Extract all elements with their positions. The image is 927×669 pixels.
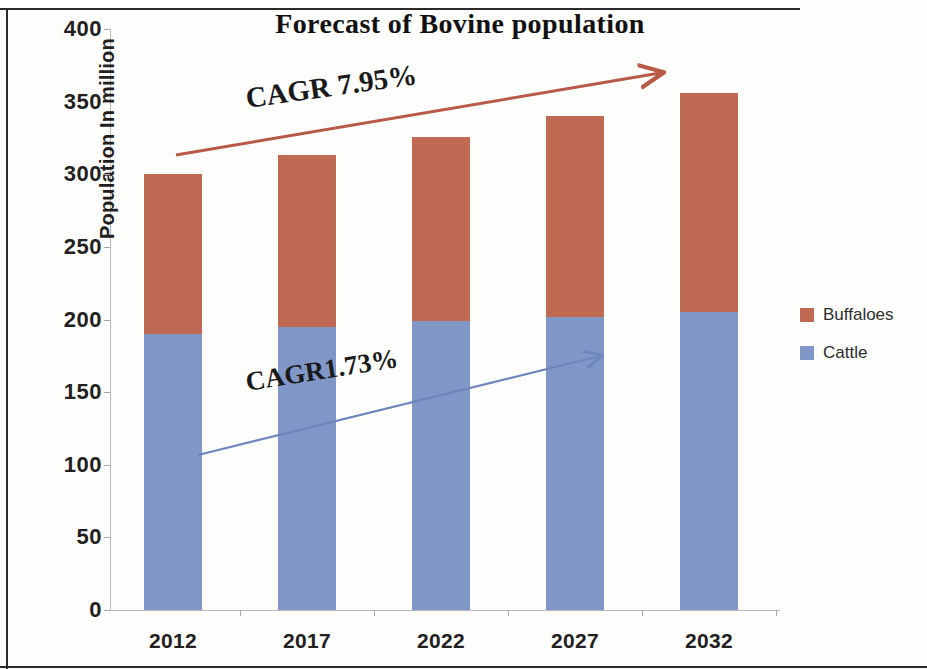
chart-legend: BuffaloesCattle [800, 305, 920, 381]
plot-area: Population In million 050100150200250300… [110, 29, 780, 610]
bar-segment-buffaloes[interactable] [680, 93, 738, 312]
legend-swatch-icon [800, 346, 814, 360]
y-axis-tick-labels: 050100150200250300350400 [32, 29, 102, 610]
bar-group[interactable] [278, 29, 336, 610]
y-axis-tick-label: 400 [42, 16, 102, 42]
bar-segment-cattle[interactable] [680, 312, 738, 610]
x-axis-tick-label: 2032 [664, 629, 754, 653]
bar-segment-cattle[interactable] [546, 317, 604, 610]
bar-segment-cattle[interactable] [144, 334, 202, 610]
x-axis-tick-label: 2022 [396, 629, 486, 653]
y-axis-tick [104, 465, 110, 466]
x-axis-tick [374, 610, 375, 616]
y-axis-tick-label: 150 [42, 379, 102, 405]
y-axis-tick [104, 610, 110, 611]
y-axis-tick-label: 200 [42, 307, 102, 333]
y-axis-tick [104, 29, 110, 30]
bar-segment-buffaloes[interactable] [412, 137, 470, 321]
x-axis-tick-label: 2012 [128, 629, 218, 653]
bar-segment-buffaloes[interactable] [278, 155, 336, 326]
bar-group[interactable] [680, 29, 738, 610]
y-axis-tick [104, 320, 110, 321]
bar-segment-buffaloes[interactable] [144, 174, 202, 334]
x-axis-tick-label: 2017 [262, 629, 352, 653]
y-axis-tick-label: 300 [42, 161, 102, 187]
y-axis-tick [104, 174, 110, 175]
x-axis-tick-labels: 20122017202220272032 [110, 629, 780, 669]
legend-item-label: Buffaloes [823, 305, 894, 325]
x-axis-tick [642, 610, 643, 616]
bar-group[interactable] [412, 29, 470, 610]
legend-item[interactable]: Cattle [800, 343, 920, 363]
bar-segment-cattle[interactable] [412, 321, 470, 610]
legend-swatch-icon [800, 308, 814, 322]
y-axis-tick [104, 537, 110, 538]
x-axis-line [110, 610, 780, 611]
scanned-page: Forecast of Bovine population Population… [0, 0, 927, 669]
y-axis-tick-label: 50 [42, 524, 102, 550]
legend-item-label: Cattle [823, 343, 867, 363]
y-axis-tick [104, 102, 110, 103]
y-axis-tick [104, 392, 110, 393]
y-axis-tick-label: 250 [42, 234, 102, 260]
y-axis-tick-label: 350 [42, 89, 102, 115]
y-axis-tick-label: 0 [42, 597, 102, 623]
x-axis-tick [240, 610, 241, 616]
x-axis-tick [508, 610, 509, 616]
page-border-left [6, 8, 8, 669]
legend-item[interactable]: Buffaloes [800, 305, 920, 325]
x-axis-tick-label: 2027 [530, 629, 620, 653]
bar-group[interactable] [546, 29, 604, 610]
x-axis-tick [776, 610, 777, 616]
y-axis-tick-label: 100 [42, 452, 102, 478]
bar-segment-buffaloes[interactable] [546, 116, 604, 316]
bar-group[interactable] [144, 29, 202, 610]
y-axis-tick [104, 247, 110, 248]
